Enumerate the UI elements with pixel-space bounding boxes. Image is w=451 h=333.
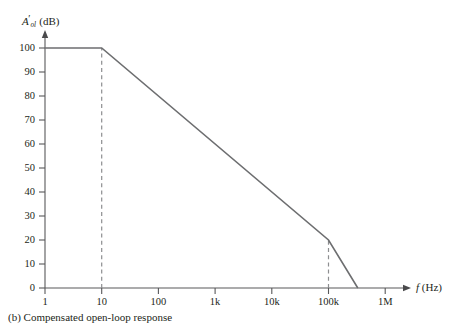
y-tick-label-70: 70 <box>14 115 35 126</box>
x-tick-label-100k: 100k <box>309 297 349 308</box>
x-tick-label-1k: 1k <box>195 297 235 308</box>
x-tick-label-10k: 10k <box>252 297 292 308</box>
y-tick-label-80: 80 <box>14 91 35 102</box>
y-tick-label-20: 20 <box>14 235 35 246</box>
x-axis-ticks <box>45 288 385 294</box>
x-tick-label-1: 1 <box>25 297 65 308</box>
open-loop-gain-curve <box>45 48 358 288</box>
y-axis-title-subscript: ol <box>30 21 36 29</box>
x-tick-label-100: 100 <box>138 297 178 308</box>
y-tick-label-50: 50 <box>14 163 35 174</box>
figure-container: 100 90 80 70 60 50 40 30 20 10 0 1 10 10… <box>0 0 451 333</box>
y-tick-label-60: 60 <box>14 139 35 150</box>
y-tick-label-30: 30 <box>14 211 35 222</box>
y-axis-title: A′ol (dB) <box>22 16 59 27</box>
bode-plot-svg <box>0 0 451 333</box>
y-axis-ticks <box>39 48 45 288</box>
x-axis-title: f (Hz) <box>416 282 442 293</box>
y-axis-arrow-icon <box>42 30 48 38</box>
y-tick-label-90: 90 <box>14 67 35 78</box>
x-axis-title-unit: (Hz) <box>419 281 442 293</box>
x-tick-label-1M: 1M <box>365 297 405 308</box>
y-axis-title-unit: (dB) <box>37 15 60 27</box>
y-tick-label-100: 100 <box>14 43 35 54</box>
x-tick-label-10: 10 <box>82 297 122 308</box>
y-tick-label-40: 40 <box>14 187 35 198</box>
y-tick-label-0: 0 <box>14 283 35 294</box>
x-axis-arrow-icon <box>403 285 411 291</box>
figure-caption: (b) Compensated open-loop response <box>8 312 172 323</box>
y-tick-label-10: 10 <box>14 259 35 270</box>
